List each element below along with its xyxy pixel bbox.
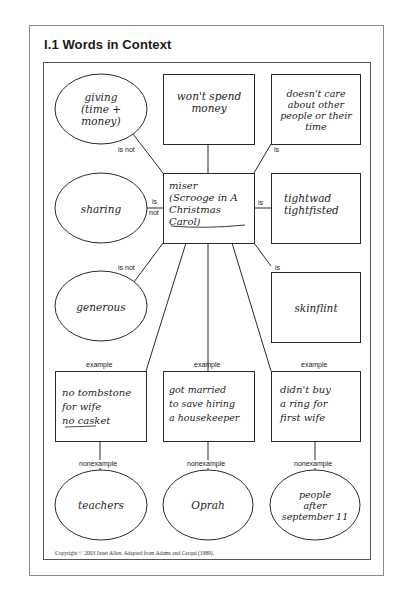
node-example-3: didn't buy a ring for first wife bbox=[272, 372, 360, 436]
label-doesnt-care-is: is bbox=[274, 146, 279, 154]
node-wont-spend: won't spend money bbox=[164, 75, 254, 129]
label-tightwad-is: is bbox=[258, 199, 263, 207]
node-tightwad: tightwad tightfisted bbox=[272, 174, 360, 234]
label-example-3: example bbox=[301, 361, 327, 369]
node-example-1: no tombstone for wife no casket bbox=[56, 372, 146, 441]
label-sharing-is: is bbox=[152, 198, 157, 206]
node-nonexample-1: teachers bbox=[57, 472, 145, 538]
label-example-2: example bbox=[194, 361, 220, 369]
node-nonexample-2: Oprah bbox=[165, 472, 251, 538]
label-nonexample-1: nonexample bbox=[79, 460, 117, 468]
node-doesnt-care: doesn't care about other people or their… bbox=[272, 75, 360, 144]
connector-example-3 bbox=[232, 243, 271, 371]
label-example-1: example bbox=[86, 361, 112, 369]
copyright-notice: Copyright © 2003 Janet Allen. Adapted fr… bbox=[55, 550, 214, 556]
node-skinflint: skinflint bbox=[272, 273, 360, 342]
label-generous-is-not: is not bbox=[118, 264, 135, 272]
label-nonexample-3: nonexample bbox=[294, 460, 332, 468]
connector-doesnt-care bbox=[254, 144, 271, 173]
label-skinflint-is: is bbox=[275, 264, 280, 272]
node-nonexample-3: people after september 11 bbox=[272, 472, 358, 538]
node-example-2: got married to save hiring a housekeeper bbox=[164, 372, 254, 436]
label-giving-is-not: is not bbox=[118, 146, 135, 154]
label-nonexample-2: nonexample bbox=[187, 460, 225, 468]
node-generous: generous bbox=[57, 274, 145, 340]
node-miser: miser (Scrooge in A Christmas Carol) bbox=[164, 174, 254, 234]
connector-skinflint bbox=[254, 243, 271, 266]
connector-example-1 bbox=[146, 243, 186, 371]
label-sharing-not: not bbox=[149, 209, 159, 217]
node-sharing: sharing bbox=[57, 176, 145, 242]
node-giving: giving (time + money) bbox=[57, 76, 145, 142]
